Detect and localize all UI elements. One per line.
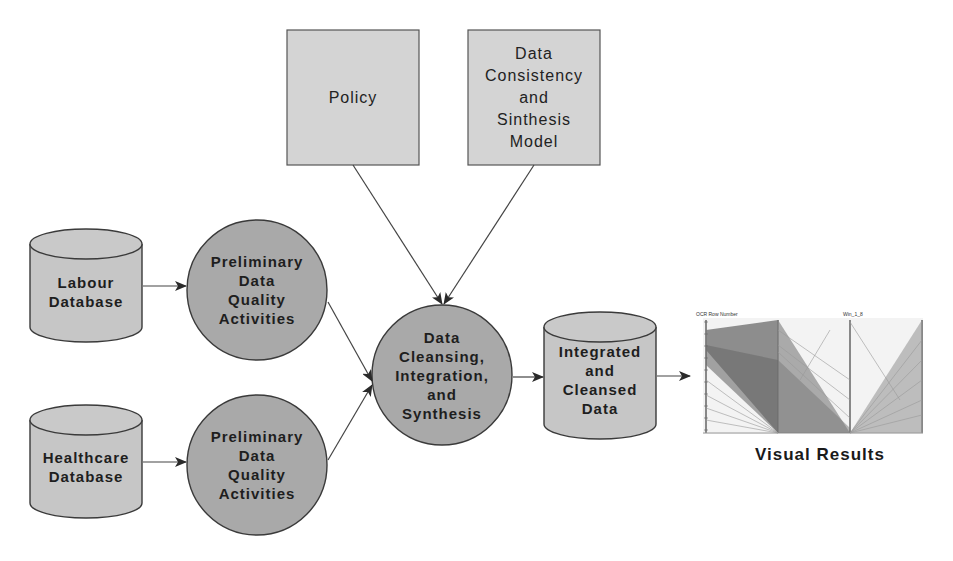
- healthcare-db-label: Healthcare Database: [30, 437, 142, 497]
- diagram-canvas: Policy Data Consistency and Sinthesis Mo…: [0, 0, 953, 561]
- labour-db-label: Labour Database: [30, 262, 142, 322]
- arrow-model-to-cleansing: [444, 165, 534, 304]
- chart-axis-title-1: OCR Row Number: [696, 311, 738, 317]
- cleansing-label: Data Cleansing, Integration, and Synthes…: [372, 325, 512, 425]
- prelim-1-label: Preliminary Data Quality Activities: [187, 250, 327, 330]
- arrow-policy-to-cleansing: [353, 165, 442, 304]
- policy-label: Policy: [287, 30, 419, 165]
- arrow-prelim1-to-cleansing: [328, 302, 372, 381]
- visual-results-label: Visual Results: [755, 445, 885, 465]
- visual-results-chart: [703, 318, 923, 434]
- integrated-db-label: Integrated and Cleansed Data: [544, 337, 656, 423]
- prelim-2-label: Preliminary Data Quality Activities: [187, 425, 327, 505]
- model-label: Data Consistency and Sinthesis Model: [468, 30, 600, 165]
- chart-axis-title-3: Win_1_8: [843, 311, 863, 317]
- arrow-prelim2-to-cleansing: [328, 385, 372, 460]
